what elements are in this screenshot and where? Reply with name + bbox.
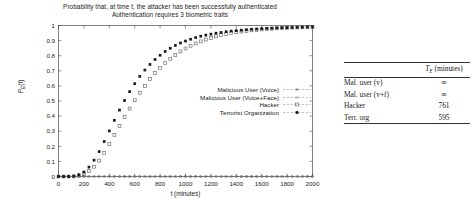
te-row-value: 761 [418, 101, 470, 112]
svg-text:0.4: 0.4 [46, 112, 55, 119]
svg-text:600: 600 [130, 180, 141, 187]
y-axis-label-tail: (t) [17, 80, 24, 86]
te-row-value: ∞ [418, 77, 470, 89]
svg-text:0: 0 [57, 180, 61, 187]
te-symbol: TE [425, 64, 432, 73]
x-axis-label: t (minutes) [58, 190, 313, 197]
plus-marker [282, 86, 312, 93]
svg-text:0.1: 0.1 [46, 158, 55, 165]
svg-text:0.3: 0.3 [46, 127, 55, 134]
y-axis-label: PE(t) [17, 80, 26, 93]
svg-text:1200: 1200 [204, 180, 218, 187]
te-table-header-blank [344, 63, 418, 78]
te-row-name: Terr. org [344, 112, 418, 124]
legend-item: Hacker [176, 101, 312, 109]
cross-marker [282, 94, 312, 101]
table-row: Mal. user (v+f)∞ [344, 89, 470, 100]
y-axis-label-sub: E [21, 86, 26, 89]
svg-text:1400: 1400 [229, 180, 243, 187]
svg-text:0.7: 0.7 [46, 67, 55, 74]
y-axis-label-main: P [17, 89, 24, 93]
figure-container: Probability that, at time t, the attacke… [0, 0, 475, 206]
te-units: (minutes) [434, 64, 462, 73]
te-row-name: Hacker [344, 101, 418, 112]
svg-text:1: 1 [52, 22, 56, 29]
table-row: Terr. org595 [344, 112, 470, 124]
svg-text:0.8: 0.8 [46, 52, 55, 59]
legend-item-label: Hacker [259, 101, 282, 108]
legend-item-label: Malicious User (Voice+Face) [200, 94, 282, 101]
chart-legend: Malicious User (Voice)Malicious User (Vo… [176, 86, 312, 116]
svg-text:0.9: 0.9 [46, 37, 55, 44]
te-row-name: Mal. user (v+f) [344, 89, 418, 100]
legend-item-label: Terrorist Organization [220, 109, 282, 116]
legend-item: Malicious User (Voice) [176, 86, 312, 94]
filled-square-marker [282, 109, 312, 116]
te-table-header-value: TE (minutes) [418, 63, 470, 78]
te-table-container: TE (minutes)Mal. user (v)∞Mal. user (v+f… [344, 62, 470, 124]
te-row-value: ∞ [418, 89, 470, 100]
open-square-marker [282, 101, 312, 108]
svg-text:1000: 1000 [179, 180, 193, 187]
svg-text:200: 200 [79, 180, 90, 187]
legend-item: Malicious User (Voice+Face) [176, 94, 312, 102]
te-table-header-row: TE (minutes) [344, 63, 470, 78]
svg-text:0.2: 0.2 [46, 143, 55, 150]
svg-text:400: 400 [104, 180, 115, 187]
svg-text:2000: 2000 [306, 180, 320, 187]
legend-item-label: Malicious User (Voice) [217, 86, 282, 93]
svg-text:0: 0 [52, 173, 56, 180]
te-row-value: 595 [418, 112, 470, 124]
svg-text:1800: 1800 [280, 180, 294, 187]
legend-item: Terrorist Organization [176, 109, 312, 117]
svg-text:1600: 1600 [255, 180, 269, 187]
te-row-name: Mal. user (v) [344, 77, 418, 89]
svg-text:0.6: 0.6 [46, 82, 55, 89]
svg-text:0.5: 0.5 [46, 97, 55, 104]
table-row: Hacker761 [344, 101, 470, 112]
te-table: TE (minutes)Mal. user (v)∞Mal. user (v+f… [344, 62, 470, 124]
svg-text:800: 800 [155, 180, 166, 187]
table-row: Mal. user (v)∞ [344, 77, 470, 89]
